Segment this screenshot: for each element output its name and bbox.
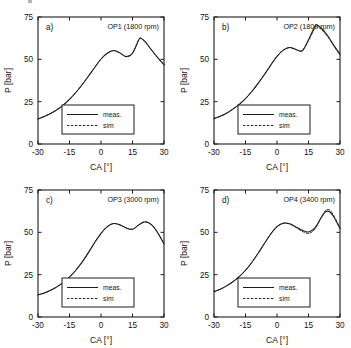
y-axis-title: P [bar]	[179, 68, 189, 93]
x-tick-label: -15	[240, 321, 252, 330]
y-tick-label: 50	[24, 55, 34, 64]
x-axis-title: CA [°]	[266, 335, 288, 345]
x-tick-label: 15	[304, 148, 314, 157]
x-tick-label: -30	[208, 321, 220, 330]
legend-label-sim: sim	[103, 122, 114, 129]
x-tick-label: 15	[128, 148, 138, 157]
x-tick-label: -15	[64, 148, 76, 157]
y-axis-title: P [bar]	[3, 241, 13, 266]
x-tick-label: 30	[335, 321, 345, 330]
panel-label: d)	[222, 196, 230, 205]
panel-condition-title: OP3 (3000 rpm)	[107, 195, 159, 204]
x-tick-label: -30	[32, 321, 44, 330]
y-axis-title: P [bar]	[3, 68, 13, 93]
y-tick-label: 25	[24, 98, 34, 107]
legend-box	[62, 278, 134, 307]
x-tick-label: -15	[64, 321, 76, 330]
legend-box	[238, 278, 310, 307]
y-tick-label: 75	[200, 186, 210, 195]
y-tick-label: 25	[200, 98, 210, 107]
legend-box	[238, 105, 310, 134]
chart-panel-a: -30-15015300255075CA [°]P [bar]a)OP1 (18…	[0, 0, 176, 175]
panel-label: b)	[222, 23, 230, 32]
four-panel-pressure-figure: -30-15015300255075CA [°]P [bar]a)OP1 (18…	[0, 0, 351, 348]
x-tick-label: 0	[99, 148, 104, 157]
legend-label-meas: meas.	[103, 111, 122, 118]
x-tick-label: 15	[128, 321, 138, 330]
y-tick-label: 50	[200, 228, 210, 237]
x-axis-title: CA [°]	[90, 335, 112, 345]
legend-label-sim: sim	[279, 295, 290, 302]
x-tick-label: -30	[32, 148, 44, 157]
x-axis-title: CA [°]	[266, 162, 288, 172]
x-tick-label: -30	[208, 148, 220, 157]
y-tick-label: 0	[28, 140, 33, 149]
panel-label: a)	[46, 23, 54, 32]
y-tick-label: 50	[200, 55, 210, 64]
chart-panel-b: -30-15015300255075CA [°]P [bar]b)OP2 (18…	[176, 0, 351, 175]
y-tick-label: 25	[24, 271, 34, 280]
y-tick-label: 75	[24, 13, 34, 22]
panel-condition-title: OP4 (3400 rpm)	[283, 195, 335, 204]
x-tick-label: -15	[240, 148, 252, 157]
legend-label-sim: sim	[279, 122, 290, 129]
panel-label: c)	[46, 196, 53, 205]
y-tick-label: 50	[24, 228, 34, 237]
chart-panel-c: -30-15015300255075CA [°]P [bar]c)OP3 (30…	[0, 173, 176, 348]
panel-condition-title: OP1 (1800 rpm)	[107, 22, 159, 31]
panel-condition-title: OP2 (1800 rpm)	[283, 22, 335, 31]
x-tick-label: 15	[304, 321, 314, 330]
x-axis-title: CA [°]	[90, 162, 112, 172]
x-tick-label: 0	[99, 321, 104, 330]
y-tick-label: 0	[28, 313, 33, 322]
y-axis-title: P [bar]	[179, 241, 189, 266]
x-tick-label: 0	[275, 148, 280, 157]
y-tick-label: 75	[24, 186, 34, 195]
y-tick-label: 0	[204, 140, 209, 149]
y-tick-label: 25	[200, 271, 210, 280]
x-tick-label: 0	[275, 321, 280, 330]
x-tick-label: 30	[159, 321, 169, 330]
legend-label-meas: meas.	[279, 111, 298, 118]
y-tick-label: 75	[200, 13, 210, 22]
legend-label-sim: sim	[103, 295, 114, 302]
x-tick-label: 30	[159, 148, 169, 157]
y-tick-label: 0	[204, 313, 209, 322]
legend-label-meas: meas.	[103, 284, 122, 291]
x-tick-label: 30	[335, 148, 345, 157]
chart-panel-d: -30-15015300255075CA [°]P [bar]d)OP4 (34…	[176, 173, 351, 348]
legend-label-meas: meas.	[279, 284, 298, 291]
legend-box	[62, 105, 134, 134]
